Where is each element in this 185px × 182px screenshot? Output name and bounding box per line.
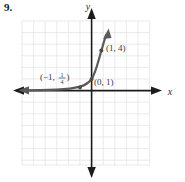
label-point-neg1-quarter: (−1, 1 4 ) <box>40 72 70 86</box>
coordinate-graph: x y (1, 4) (0, 1) (−1, 1 4 ) <box>0 0 185 182</box>
x-axis-arrow-right <box>151 86 162 94</box>
label-point-0-1: (0, 1) <box>94 77 114 87</box>
label-fraction-denominator: 4 <box>61 79 64 85</box>
dot-point-1-4 <box>99 49 103 53</box>
label-fraction-close: ) <box>67 72 70 82</box>
axis-arrowheads <box>13 8 162 178</box>
label-point-1-4: (1, 4) <box>106 43 126 53</box>
x-axis-label: x <box>167 86 173 97</box>
dot-point-neg1 <box>78 86 82 90</box>
figure-container: 9. <box>0 0 185 182</box>
curve-arrow-up-right <box>103 29 111 40</box>
y-axis-label: y <box>85 1 91 12</box>
label-fraction-numerator: 1 <box>61 72 64 78</box>
label-fraction-open: (−1, <box>40 72 55 82</box>
axis-lines <box>16 12 156 174</box>
dot-point-0-1 <box>90 77 94 81</box>
grid-lines <box>22 21 150 165</box>
y-axis-arrow-down <box>87 167 95 178</box>
